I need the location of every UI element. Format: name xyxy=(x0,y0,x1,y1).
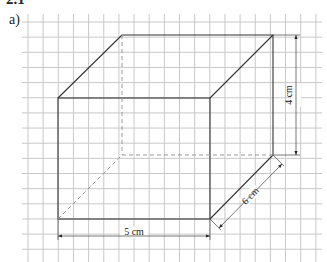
width-label: 5 cm xyxy=(124,226,144,237)
cuboid-drawing xyxy=(58,35,273,219)
grid-paper xyxy=(22,14,322,262)
height-label: 4 cm xyxy=(283,85,294,105)
cube-diagram: 4 cm 5 cm 6 cm xyxy=(0,0,327,262)
